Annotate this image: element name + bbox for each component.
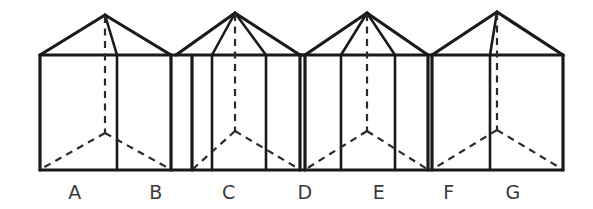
house-2: [171, 13, 305, 170]
label-e: E: [373, 181, 386, 203]
house-2-roof-left-slope: [176, 13, 235, 55]
house-4-roof-right-slope: [497, 12, 563, 55]
figure-container: A B C D E F G: [0, 0, 593, 209]
house-4: [432, 12, 563, 170]
label-f: F: [443, 181, 454, 203]
house-1-hidden-base-left: [41, 133, 105, 169]
house-2-roof-right-slope: [235, 13, 300, 55]
house-4-hidden-base-left: [433, 130, 497, 169]
label-a: A: [68, 181, 82, 203]
house-1-hidden-base-right: [105, 133, 170, 169]
house-3-hidden-base-left: [306, 131, 367, 169]
house-4-hidden-base-right: [497, 130, 562, 169]
house-3-hidden-base-right: [367, 131, 427, 169]
label-c: C: [222, 181, 236, 203]
house-3-roof-left-slope: [305, 13, 367, 55]
house-3-roof-right-slope: [367, 13, 428, 55]
label-d: D: [297, 181, 312, 203]
house-2-hidden-base-left: [193, 131, 235, 169]
houses-diagram: A B C D E F G: [0, 0, 593, 209]
house-3-roof-hip-ridge-right: [367, 13, 395, 55]
label-g: G: [505, 181, 520, 203]
house-4-roof-left-slope: [432, 12, 497, 55]
house-1: [40, 15, 171, 170]
house-3: [300, 13, 432, 170]
house-1-roof-left-slope: [40, 15, 105, 55]
label-b: B: [149, 181, 163, 203]
house-3-roof-hip-ridge-left: [341, 13, 367, 55]
house-2-roof-hip-ridge-right: [235, 13, 266, 55]
